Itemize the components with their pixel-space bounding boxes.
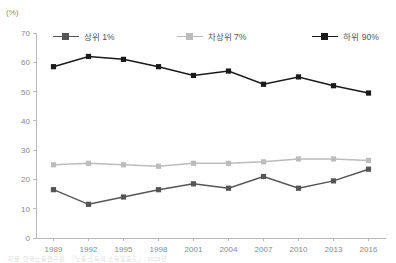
legend-label-top1: 상위 1% bbox=[84, 30, 115, 42]
data-point-marker bbox=[296, 186, 301, 191]
x-tick-label: 2001 bbox=[185, 245, 203, 254]
y-tick-label: 70 bbox=[21, 29, 30, 38]
data-point-marker bbox=[331, 83, 336, 88]
data-point-marker bbox=[121, 162, 126, 167]
data-point-marker bbox=[191, 181, 196, 186]
data-point-marker bbox=[261, 82, 266, 87]
legend-label-next7: 차상위 7% bbox=[208, 30, 247, 42]
data-point-marker bbox=[191, 161, 196, 166]
y-tick-label: 30 bbox=[21, 146, 30, 155]
y-axis-unit-label: (%) bbox=[6, 8, 18, 17]
series-layer bbox=[51, 54, 371, 207]
data-point-marker bbox=[226, 186, 231, 191]
data-point-marker bbox=[366, 167, 371, 172]
data-point-marker bbox=[366, 90, 371, 95]
data-point-marker bbox=[121, 57, 126, 62]
chart-source-caption: 자료: 한국노동연구원, 『노동 소득의 소득집중도』, 2018년 bbox=[8, 254, 167, 263]
y-tick-label: 20 bbox=[21, 175, 30, 184]
data-point-marker bbox=[86, 202, 91, 207]
legend-item-next7[interactable]: 차상위 7% bbox=[177, 30, 247, 42]
x-tick-label: 2004 bbox=[220, 245, 238, 254]
y-tick-label: 10 bbox=[21, 205, 30, 214]
y-tick-label: 60 bbox=[21, 58, 30, 67]
data-point-marker bbox=[331, 156, 336, 161]
line-chart: (%) 상위 1% 차상위 7% 하위 90% 010203040506070 bbox=[0, 0, 396, 263]
x-tick-label: 2013 bbox=[325, 245, 343, 254]
data-point-marker bbox=[51, 162, 56, 167]
x-tick-label: 1995 bbox=[115, 245, 133, 254]
data-point-marker bbox=[156, 187, 161, 192]
series-line-1 bbox=[54, 159, 369, 166]
data-point-marker bbox=[51, 187, 56, 192]
data-point-marker bbox=[296, 156, 301, 161]
data-point-marker bbox=[191, 73, 196, 78]
legend-swatch-icon-next7 bbox=[177, 31, 203, 41]
x-tick-label: 1998 bbox=[150, 245, 168, 254]
legend-swatch-icon-bottom90 bbox=[312, 31, 338, 41]
chart-legend: 상위 1% 차상위 7% 하위 90% bbox=[45, 28, 385, 44]
data-point-marker bbox=[156, 164, 161, 169]
data-point-marker bbox=[86, 161, 91, 166]
x-tick-label: 2016 bbox=[360, 245, 378, 254]
y-axis: 010203040506070 bbox=[21, 29, 36, 243]
y-tick-label: 0 bbox=[26, 234, 31, 243]
y-tick-label: 50 bbox=[21, 88, 30, 97]
y-tick-label: 40 bbox=[21, 117, 30, 126]
series-line-0 bbox=[54, 169, 369, 204]
data-point-marker bbox=[156, 64, 161, 69]
legend-item-bottom90[interactable]: 하위 90% bbox=[312, 30, 378, 42]
x-axis: 1989199219951998200120042007201020132016 bbox=[36, 238, 386, 254]
data-point-marker bbox=[121, 194, 126, 199]
data-point-marker bbox=[261, 174, 266, 179]
series-line-2 bbox=[54, 56, 369, 93]
legend-swatch-icon-top1 bbox=[53, 31, 79, 41]
data-point-marker bbox=[226, 161, 231, 166]
x-tick-label: 1989 bbox=[45, 245, 63, 254]
x-tick-label: 2010 bbox=[290, 245, 308, 254]
data-point-marker bbox=[226, 68, 231, 73]
data-point-marker bbox=[366, 158, 371, 163]
data-point-marker bbox=[296, 74, 301, 79]
data-point-marker bbox=[261, 159, 266, 164]
legend-label-bottom90: 하위 90% bbox=[343, 30, 378, 42]
data-point-marker bbox=[331, 178, 336, 183]
legend-item-top1[interactable]: 상위 1% bbox=[53, 30, 115, 42]
data-point-marker bbox=[86, 54, 91, 59]
x-tick-label: 2007 bbox=[255, 245, 273, 254]
data-point-marker bbox=[51, 64, 56, 69]
x-tick-label: 1992 bbox=[80, 245, 98, 254]
